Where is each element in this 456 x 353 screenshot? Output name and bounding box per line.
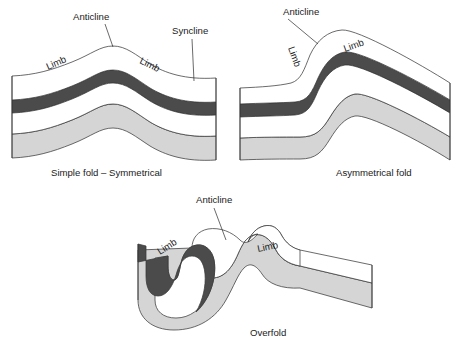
overfold-anticline-label: Anticline [196,194,232,205]
asymmetrical-fold-limb-left-label: Limb [286,45,303,68]
folds-figure: Anticline Syncline Limb Limb Simple fold… [0,0,456,353]
simple-fold-syncline-label: Syncline [172,25,208,36]
simple-fold-anticline-label: Anticline [73,11,109,22]
overfold-caption: Overfold [250,327,286,338]
diagram-asymmetrical-fold: Anticline Limb Limb Asymmetrical fold [240,6,450,178]
diagram-simple-fold-symmetrical: Anticline Syncline Limb Limb Simple fold… [12,11,216,178]
asymmetrical-fold-anticline-leader [288,19,318,44]
asymmetrical-fold-anticline-label: Anticline [283,6,319,17]
asymmetrical-fold-caption: Asymmetrical fold [336,167,412,178]
diagram-overfold: Anticline Limb Limb Overfold [138,194,372,338]
simple-fold-caption: Simple fold – Symmetrical [51,167,162,178]
simple-fold-anticline-leader [105,24,113,47]
simple-fold-syncline-leader [192,39,194,81]
